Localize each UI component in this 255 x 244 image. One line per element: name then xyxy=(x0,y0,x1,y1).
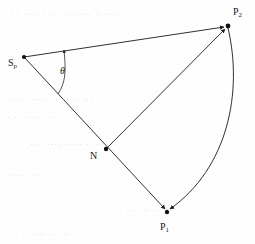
diagram-svg xyxy=(0,0,255,244)
node-dot-p1 xyxy=(165,210,169,214)
node-label-p2-base: P xyxy=(233,6,239,17)
node-label-p1-base: P xyxy=(160,221,166,232)
node-dot-sp xyxy=(22,55,26,59)
node-label-sp: Sp xyxy=(8,57,17,68)
node-label-p1-sub: 1 xyxy=(166,226,169,233)
segment-n-p2 xyxy=(106,29,225,149)
node-label-p2-sub: 2 xyxy=(239,11,242,18)
node-label-sp-base: S xyxy=(8,57,14,68)
segment-sp-p2 xyxy=(24,27,224,57)
node-dot-n xyxy=(104,147,108,151)
node-dot-p2 xyxy=(226,24,231,29)
node-label-p1: P1 xyxy=(160,221,169,232)
node-label-n: N xyxy=(90,150,97,161)
node-label-n-base: N xyxy=(90,150,97,161)
curve-p2-p1 xyxy=(170,28,233,209)
figure-canvas: · · ·· ·· · ··· ·· ····· ·· ···· ··· ·· … xyxy=(0,0,255,244)
node-label-p2: P2 xyxy=(233,6,242,17)
angle-label-theta: θ xyxy=(60,65,65,76)
segment-sp-p1 xyxy=(24,57,165,209)
node-label-sp-sub: p xyxy=(14,62,17,69)
